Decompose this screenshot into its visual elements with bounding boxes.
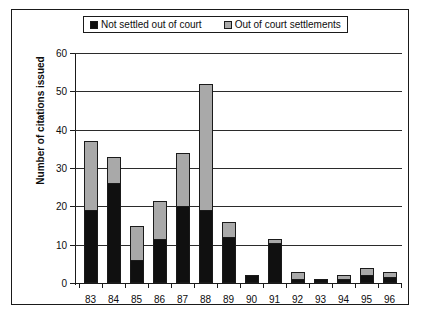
bar-segment-out-of-court-85 [130, 226, 144, 261]
bar-segment-out-of-court-83 [84, 141, 98, 210]
x-tick-label-86: 86 [154, 294, 165, 305]
legend-entry-not-settled: Not settled out of court [90, 19, 202, 30]
legend-label-out-of-court: Out of court settlements [235, 19, 341, 30]
bar-segment-not-settled-85 [130, 260, 144, 283]
x-tick-label-91: 91 [269, 294, 280, 305]
x-tick-91 [263, 284, 264, 288]
x-tick-label-89: 89 [223, 294, 234, 305]
gridline-50 [75, 91, 402, 92]
x-tick-95 [355, 284, 356, 288]
x-tick-end [401, 284, 402, 288]
plot-area: 0102030405060 83848586878889909192939495… [75, 53, 401, 284]
bar-segment-not-settled-93 [314, 279, 328, 283]
y-tick-label-20: 20 [56, 201, 67, 212]
x-tick-label-88: 88 [200, 294, 211, 305]
x-tick-92 [286, 284, 287, 288]
x-tick-label-95: 95 [361, 294, 372, 305]
x-tick-label-83: 83 [85, 294, 96, 305]
bar-segment-not-settled-91 [268, 243, 282, 283]
y-tick-60 [70, 53, 75, 54]
bar-segment-not-settled-86 [153, 239, 167, 283]
bar-segment-not-settled-96 [383, 277, 397, 283]
bar-segment-out-of-court-87 [176, 153, 190, 207]
x-tick-label-92: 92 [292, 294, 303, 305]
legend-entry-out-of-court: Out of court settlements [224, 19, 341, 30]
bar-92 [291, 272, 305, 284]
bar-86 [153, 201, 167, 283]
y-tick-20 [70, 206, 75, 207]
y-tick-label-30: 30 [56, 163, 67, 174]
y-axis-title: Number of citations issued [35, 41, 46, 201]
y-tick-50 [70, 91, 75, 92]
x-tick-86 [148, 284, 149, 288]
x-tick-93 [309, 284, 310, 288]
bar-87 [176, 153, 190, 283]
x-tick-85 [125, 284, 126, 288]
bar-segment-out-of-court-84 [107, 157, 121, 184]
legend-label-not-settled: Not settled out of court [101, 19, 202, 30]
black-square-icon [90, 21, 98, 29]
bar-segment-out-of-court-92 [291, 272, 305, 280]
x-tick-label-94: 94 [338, 294, 349, 305]
bar-segment-not-settled-87 [176, 206, 190, 283]
y-tick-label-60: 60 [56, 48, 67, 59]
bar-segment-not-settled-89 [222, 237, 236, 283]
bar-segment-out-of-court-88 [199, 84, 213, 211]
gridline-30 [75, 168, 402, 169]
chart-legend: Not settled out of court Out of court se… [83, 16, 348, 33]
x-tick-label-85: 85 [131, 294, 142, 305]
bar-96 [383, 272, 397, 284]
x-tick-label-93: 93 [315, 294, 326, 305]
bar-83 [84, 141, 98, 283]
bar-88 [199, 84, 213, 283]
y-tick-label-10: 10 [56, 239, 67, 250]
y-tick-30 [70, 168, 75, 169]
bar-94 [337, 275, 351, 283]
chart-figure: Not settled out of court Out of court se… [11, 9, 409, 305]
x-tick-89 [217, 284, 218, 288]
bar-91 [268, 239, 282, 283]
x-tick-label-84: 84 [108, 294, 119, 305]
x-tick-84 [102, 284, 103, 288]
bar-84 [107, 157, 121, 284]
bar-90 [245, 275, 259, 283]
x-tick-90 [240, 284, 241, 288]
bar-segment-out-of-court-86 [153, 201, 167, 239]
bar-95 [360, 268, 374, 283]
bar-93 [314, 279, 328, 283]
gridline-60 [75, 53, 402, 54]
bar-segment-not-settled-92 [291, 279, 305, 283]
bar-segment-out-of-court-95 [360, 268, 374, 276]
bar-segment-not-settled-94 [337, 279, 351, 283]
bar-segment-not-settled-88 [199, 210, 213, 283]
bar-segment-not-settled-95 [360, 275, 374, 283]
gridline-40 [75, 130, 402, 131]
bar-89 [222, 222, 236, 283]
bar-segment-out-of-court-89 [222, 222, 236, 237]
x-tick-label-90: 90 [246, 294, 257, 305]
x-tick-87 [171, 284, 172, 288]
x-tick-83 [79, 284, 80, 288]
gridline-10 [75, 245, 402, 246]
gray-square-icon [224, 21, 232, 29]
x-tick-88 [194, 284, 195, 288]
y-tick-label-50: 50 [56, 86, 67, 97]
gridline-20 [75, 206, 402, 207]
bar-segment-not-settled-83 [84, 210, 98, 283]
y-tick-40 [70, 130, 75, 131]
y-tick-0 [70, 283, 75, 284]
bar-segment-not-settled-84 [107, 183, 121, 283]
x-tick-label-87: 87 [177, 294, 188, 305]
bar-85 [130, 226, 144, 284]
y-tick-label-40: 40 [56, 124, 67, 135]
y-tick-10 [70, 245, 75, 246]
x-tick-94 [332, 284, 333, 288]
x-tick-label-96: 96 [384, 294, 395, 305]
y-tick-label-0: 0 [61, 278, 67, 289]
bar-segment-not-settled-90 [245, 275, 259, 283]
x-tick-96 [378, 284, 379, 288]
y-axis-line [75, 53, 76, 285]
